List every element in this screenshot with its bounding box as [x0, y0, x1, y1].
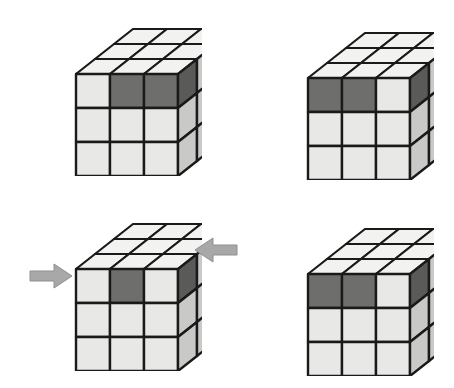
- cube-step-3-front-cell-r1-c2: [144, 303, 178, 337]
- arrow-right-pointing-left-glyph: [195, 238, 237, 262]
- cube-step-1-front-cell-r2-c2: [144, 142, 178, 176]
- cube-step-2-front-cell-r2-c1: [342, 146, 376, 180]
- cube-step-1-top-face: [76, 29, 202, 74]
- cube-step-2-front-cell-r1-c0: [308, 112, 342, 146]
- arrow-left-pointing-right: [28, 262, 74, 290]
- cube-step-2-front-cell-r2-c0: [308, 146, 342, 180]
- cube-step-3-front-cell-r2-c2: [144, 337, 178, 371]
- cube-step-2-front-cell-r1-c1: [342, 112, 376, 146]
- cube-step-4-front-cell-r1-c2: [376, 308, 410, 342]
- cube-step-3-front-cell-r1-c1: [110, 303, 144, 337]
- arrow-right-pointing-left: [193, 236, 239, 264]
- cube-step-1-front-cell-r1-c1: [110, 108, 144, 142]
- cube-step-4-front-cell-r0-c0: [308, 274, 342, 308]
- cube-step-4-front-cell-r0-c1: [342, 274, 376, 308]
- panel-2: [294, 30, 434, 180]
- cube-step-3-front-cell-r0-c0: [76, 269, 110, 303]
- panel-4: [294, 226, 434, 376]
- cube-step-2-top-face: [308, 33, 434, 78]
- panel-1: [62, 26, 202, 176]
- cube-step-4-front-cell-r2-c0: [308, 342, 342, 376]
- cube-step-2-front-cell-r1-c2: [376, 112, 410, 146]
- figure-canvas: [0, 0, 454, 388]
- cube-step-3-front-cell-r1-c0: [76, 303, 110, 337]
- cube-step-1: [62, 26, 202, 176]
- cube-step-2-front-cell-r0-c1: [342, 78, 376, 112]
- cube-step-2-front-cell-r2-c2: [376, 146, 410, 180]
- cube-step-4: [294, 226, 434, 376]
- arrow-left-pointing-right-glyph: [30, 264, 72, 288]
- cube-step-2: [294, 30, 434, 180]
- cube-step-4-front-cell-r2-c2: [376, 342, 410, 376]
- cube-step-1-front-cell-r0-c2: [144, 74, 178, 108]
- cube-step-3: [62, 221, 202, 371]
- cube-step-3-top-face: [76, 224, 202, 269]
- cube-step-4-front-cell-r1-c0: [308, 308, 342, 342]
- cube-step-3-front-face: [76, 269, 178, 371]
- cube-step-1-front-cell-r0-c0: [76, 74, 110, 108]
- cube-step-4-front-face: [308, 274, 410, 376]
- cube-step-3-front-cell-r2-c0: [76, 337, 110, 371]
- cube-step-2-front-cell-r0-c0: [308, 78, 342, 112]
- arrow-right-pointing-left: [193, 236, 239, 264]
- cube-step-1-front-cell-r1-c0: [76, 108, 110, 142]
- cube-step-1-front-cell-r0-c1: [110, 74, 144, 108]
- arrow-left-pointing-right: [28, 262, 74, 290]
- cube-step-4-front-cell-r0-c2: [376, 274, 410, 308]
- cube-step-4-front-cell-r2-c1: [342, 342, 376, 376]
- cube-step-1-front-cell-r1-c2: [144, 108, 178, 142]
- cube-step-1-front-face: [76, 74, 178, 176]
- cube-step-1-front-cell-r2-c1: [110, 142, 144, 176]
- cube-step-4-top-face: [308, 229, 434, 274]
- cube-step-3-front-cell-r0-c1: [110, 269, 144, 303]
- cube-step-3-front-cell-r0-c2: [144, 269, 178, 303]
- cube-step-4-front-cell-r1-c1: [342, 308, 376, 342]
- cube-step-2-front-cell-r0-c2: [376, 78, 410, 112]
- panel-3: [62, 221, 202, 371]
- cube-step-3-front-cell-r2-c1: [110, 337, 144, 371]
- cube-step-1-front-cell-r2-c0: [76, 142, 110, 176]
- cube-step-2-front-face: [308, 78, 410, 180]
